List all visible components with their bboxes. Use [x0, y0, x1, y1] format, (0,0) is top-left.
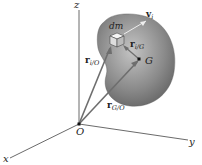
x-axis — [10, 124, 79, 158]
center-of-mass-point — [138, 58, 141, 61]
y-axis — [79, 124, 188, 140]
diagram-svg — [0, 0, 202, 165]
origin-label: O — [76, 127, 84, 137]
r-GO-label: rG/O — [107, 101, 124, 112]
y-axis-label: y — [189, 137, 195, 147]
r-iO-label: ri/O — [85, 56, 99, 67]
dm-label: dm — [109, 22, 123, 31]
r-iG-label: ri/G — [130, 40, 144, 51]
G-label: G — [145, 56, 153, 66]
x-axis-label: x — [3, 154, 9, 164]
velocity-label: vi — [146, 10, 153, 21]
z-axis-label: z — [74, 0, 79, 10]
mass-element-cube — [110, 33, 124, 47]
diagram-canvas: z y x O dm G vi ri/O ri/G rG/O — [0, 0, 202, 165]
